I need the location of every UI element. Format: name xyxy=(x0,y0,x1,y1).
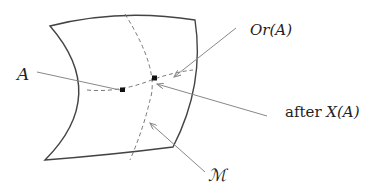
label-after-x: after X(A) xyxy=(285,103,360,121)
dashed-curve-horizontal xyxy=(87,70,193,91)
leader-line-orientation xyxy=(174,28,236,77)
point-x-marker xyxy=(152,76,157,81)
label-manifold: ℳ xyxy=(208,165,229,185)
leader-line-manifold xyxy=(150,123,205,172)
label-after-x-prefix: after xyxy=(285,103,326,121)
leader-line-after-x xyxy=(157,84,267,116)
label-a: A xyxy=(15,64,29,84)
label-after-x-expr: X(A) xyxy=(325,103,359,121)
point-a-marker xyxy=(120,88,125,93)
manifold-diagram: A Or(A) after X(A) ℳ xyxy=(0,0,387,191)
label-orientation: Or(A) xyxy=(250,21,292,39)
